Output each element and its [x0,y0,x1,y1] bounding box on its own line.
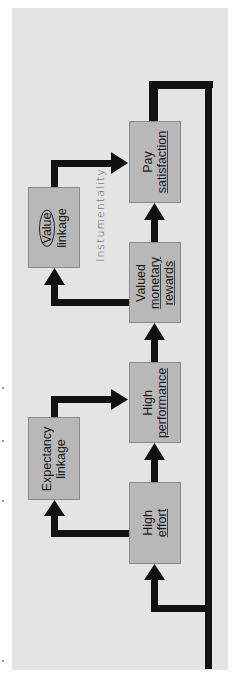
box-valued-monetary-rewards: Valued monetary rewards [129,242,181,323]
box-high-effort: High effort [129,482,181,564]
margin-dot [2,500,4,502]
valued-rewards-line3: rewards [162,256,176,308]
high-effort-line1: High [141,509,155,537]
box-pay-satisfaction: Pay satisfaction [129,121,181,203]
margin-dot [2,387,4,389]
pay-satisfaction-line1: Pay [141,131,155,194]
box-expectancy-linkage: Expectancy linkage [28,417,80,500]
valued-rewards-line2: monetary [148,256,162,308]
box-high-performance: High performance [129,362,181,443]
value-linkage-line1: Value [39,209,55,246]
value-linkage-line2: linkage [55,208,69,248]
instrumentality-note: Instumentality [94,168,107,262]
handwritten-annotation: Instumentality [90,160,110,270]
box-value-linkage: Value linkage [28,187,80,268]
arrows-final [0,0,234,679]
high-performance-line1: High [141,367,155,437]
valued-rewards-line1: Valued [134,256,148,308]
high-performance-line2: performance [155,367,169,437]
margin-dot [2,440,4,442]
high-effort-line2: effort [155,509,169,537]
expectancy-linkage-line1: Expectancy [40,426,54,491]
expectancy-linkage-line2: linkage [54,426,68,491]
margin-dot [2,660,4,662]
pay-satisfaction-line2: satisfaction [155,131,169,194]
